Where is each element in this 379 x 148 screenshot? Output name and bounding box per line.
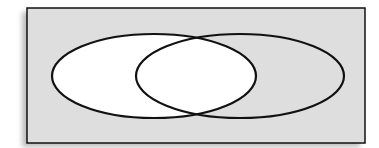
venn-diagram <box>0 0 379 148</box>
